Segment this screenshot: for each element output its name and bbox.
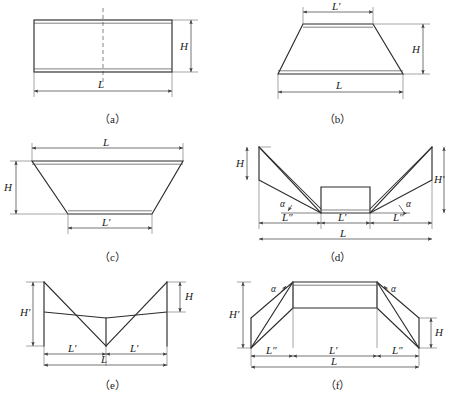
label-l: L	[97, 78, 104, 90]
panel-e: H′ H L′ L′ L （e）	[0, 270, 225, 401]
label-l-total: L	[339, 227, 346, 239]
left-upper-face	[44, 282, 106, 346]
label-h: H	[434, 326, 444, 338]
label-h: H	[184, 290, 194, 302]
caption-d: （d）	[225, 248, 450, 264]
label-l-dprime-right: L″	[392, 211, 404, 223]
label-l-total: L	[330, 355, 337, 367]
panel-b-drawing: L′ H L	[225, 0, 450, 112]
caption-f: （f）	[225, 376, 450, 392]
label-l: L	[335, 79, 342, 91]
label-alpha-left: α	[280, 199, 286, 209]
panel-a-drawing: H L	[0, 0, 225, 112]
label-l-dprime-right: L″	[391, 344, 403, 356]
panel-f-drawing: α α H′ H L″ L′ L″ L	[225, 270, 450, 380]
panel-c-drawing: L H L′	[0, 135, 225, 250]
center-top-slab	[293, 282, 377, 308]
right-wing-crease-a	[370, 147, 432, 209]
label-h: H	[179, 40, 189, 52]
label-h-prime: H′	[19, 306, 31, 318]
right-wing-upper-face	[377, 282, 419, 348]
caption-b: （b）	[225, 110, 450, 126]
left-wing-crease-a	[259, 147, 321, 209]
label-l-prime: L′	[331, 0, 341, 12]
panel-f: α α H′ H L″ L′ L″ L （f）	[225, 270, 450, 401]
label-l-prime: L′	[101, 216, 111, 228]
panel-c: L H L′ （c）	[0, 135, 225, 275]
label-l-dprime-left: L″	[281, 211, 293, 223]
shape-trapezoid-narrow-bottom	[32, 161, 183, 214]
caption-a: （a）	[0, 110, 225, 126]
panel-d-drawing: α α H H′ L″ L′ L″ L	[225, 135, 450, 253]
right-upper-face	[106, 282, 167, 346]
label-l: L	[102, 136, 109, 148]
panel-a: H L （a）	[0, 0, 225, 135]
shape-trapezoid-narrow-top	[278, 24, 403, 74]
left-lower-face	[44, 312, 106, 318]
label-l-prime: L′	[337, 211, 347, 223]
caption-e: （e）	[0, 376, 225, 392]
label-alpha-left: α	[271, 284, 277, 294]
label-h-prime: H′	[228, 308, 240, 320]
label-l-dprime-left: L″	[265, 344, 277, 356]
panel-b: L′ H L （b）	[225, 0, 450, 135]
label-h: H	[3, 181, 13, 193]
label-l-prime-left: L′	[67, 342, 77, 354]
label-l-total: L	[100, 353, 107, 365]
panel-e-drawing: H′ H L′ L′ L	[0, 270, 225, 380]
panel-d: α α H H′ L″ L′ L″ L （d）	[225, 135, 450, 275]
label-l-prime-right: L′	[129, 342, 139, 354]
right-lower-face	[106, 312, 167, 318]
figure-sheet: H L （a） L′ H	[0, 0, 450, 401]
label-alpha-right: α	[391, 284, 397, 294]
right-wing-crease-a	[377, 282, 419, 318]
label-h: H	[235, 157, 245, 169]
label-h-prime: H′	[433, 173, 445, 185]
caption-c: （c）	[0, 248, 225, 264]
label-h: H	[411, 43, 421, 55]
center-box	[321, 187, 370, 213]
label-alpha-right: α	[406, 199, 412, 209]
